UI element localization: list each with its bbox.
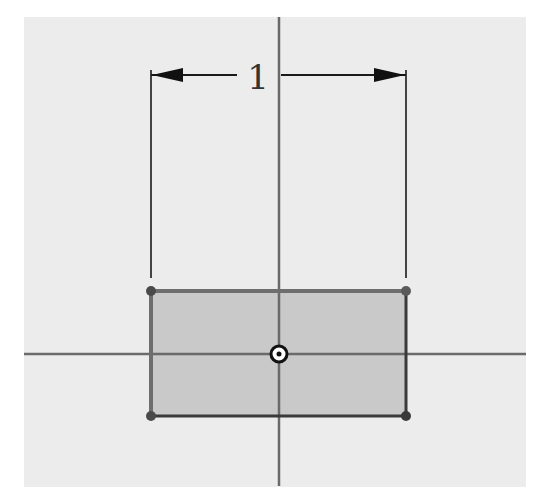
- vertex-bottom-right[interactable]: [401, 411, 411, 421]
- arrowhead-left-icon: [152, 68, 183, 82]
- vertex-bottom-left[interactable]: [146, 411, 156, 421]
- dimension-value[interactable]: 1: [238, 57, 278, 97]
- vertex-top-left[interactable]: [146, 286, 156, 296]
- vertex-top-right[interactable]: [401, 286, 411, 296]
- origin-center-dot: [277, 352, 282, 357]
- arrowhead-right-icon: [374, 68, 405, 82]
